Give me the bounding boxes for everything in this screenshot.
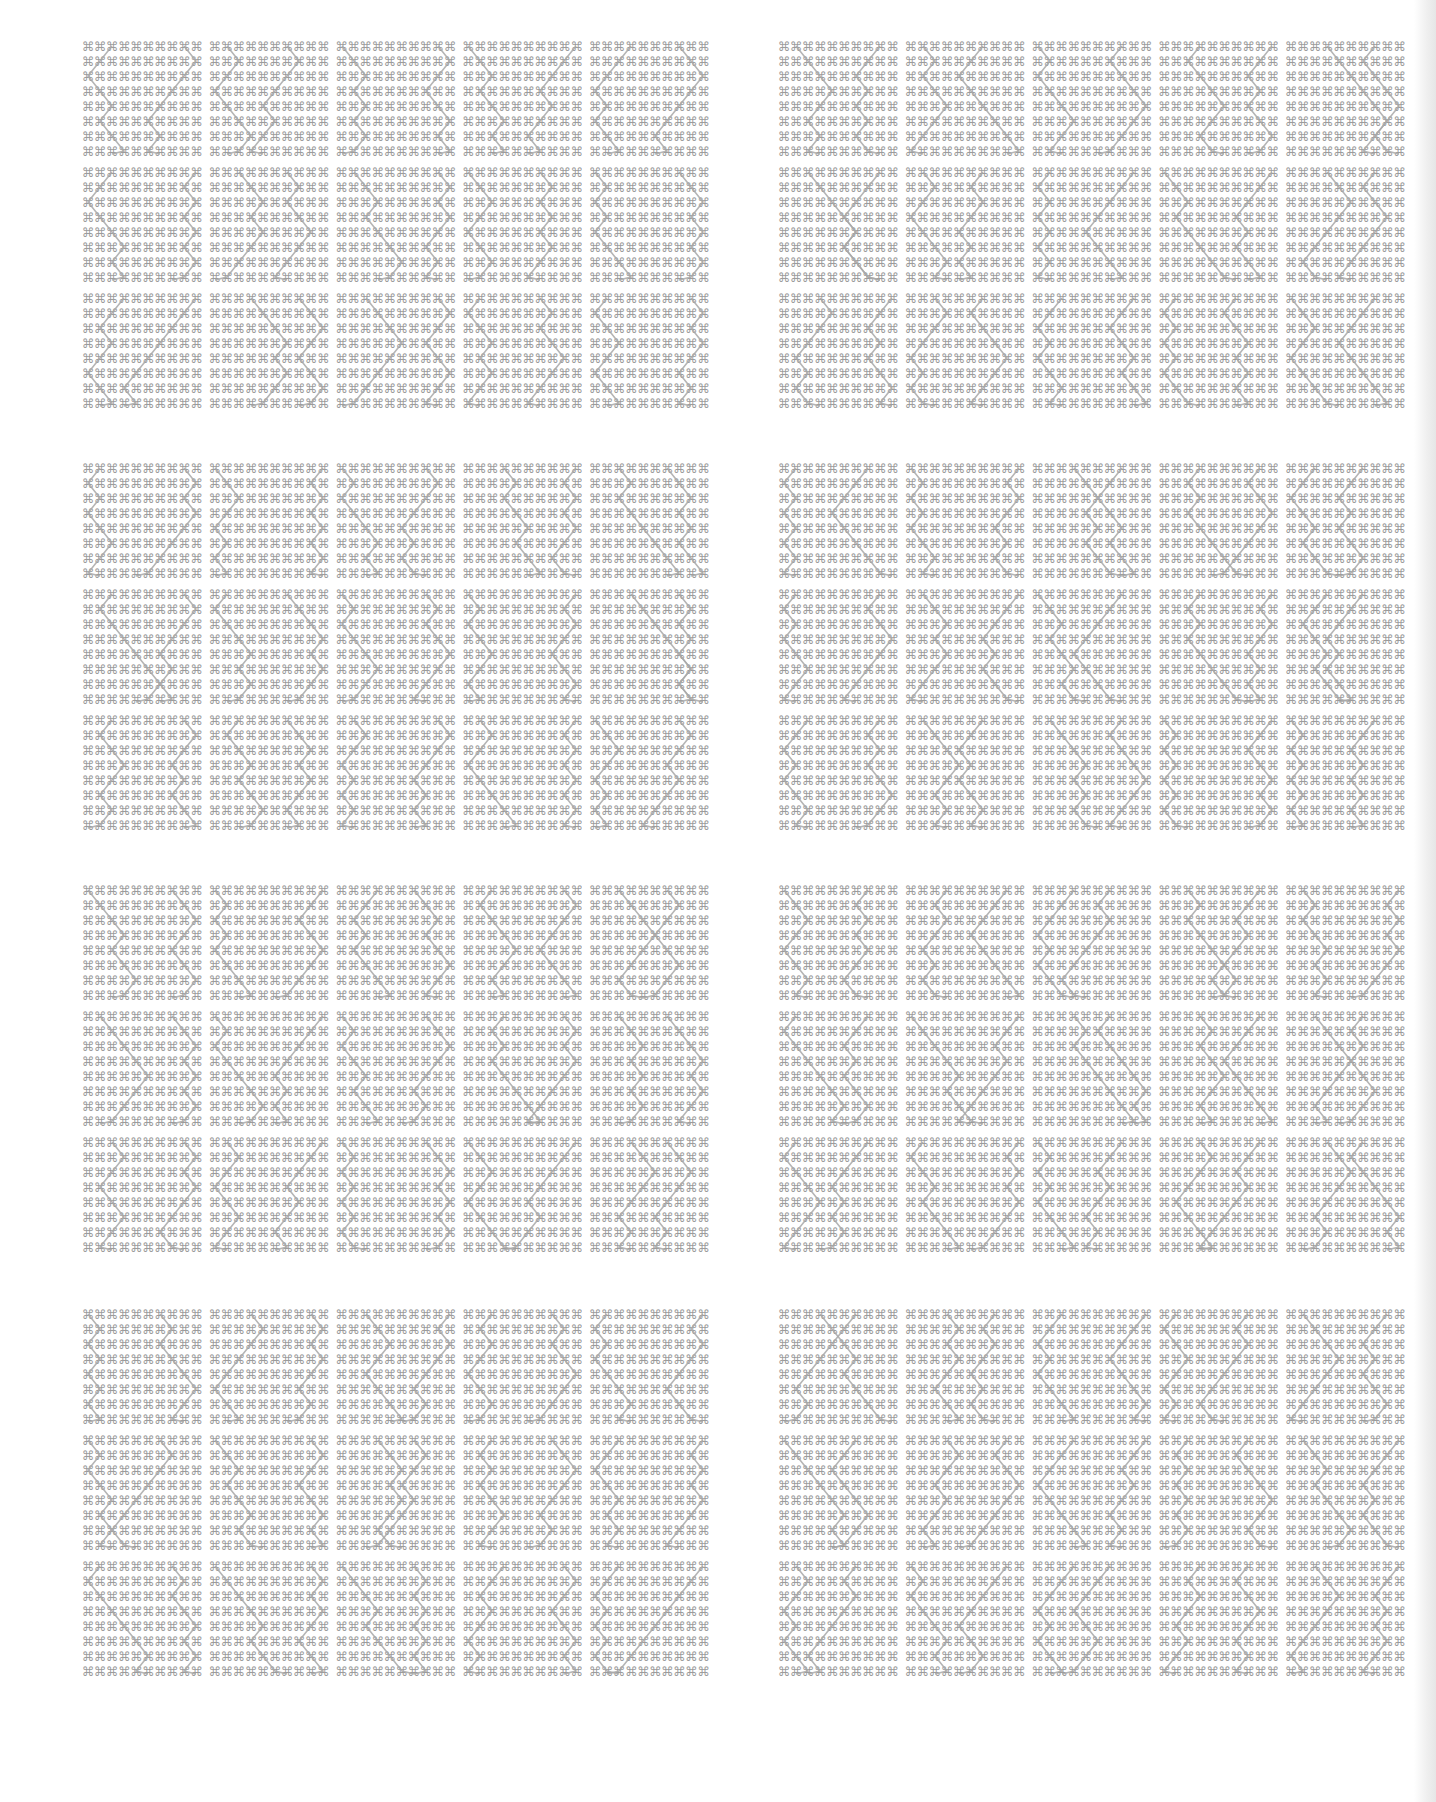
glyph-grid: ⌘⌘⌘⌘⌘⌘⌘⌘⌘⌘ ⌘⌘⌘⌘⌘⌘⌘⌘⌘⌘ ⌘⌘⌘⌘⌘⌘⌘⌘⌘⌘ ⌘⌘⌘⌘⌘⌘⌘… bbox=[905, 714, 1025, 833]
pattern-block: ⌘⌘⌘⌘⌘⌘⌘⌘⌘⌘ ⌘⌘⌘⌘⌘⌘⌘⌘⌘⌘ ⌘⌘⌘⌘⌘⌘⌘⌘⌘⌘ ⌘⌘⌘⌘⌘⌘⌘… bbox=[82, 462, 709, 834]
pattern-tile: ⌘⌘⌘⌘⌘⌘⌘⌘⌘⌘ ⌘⌘⌘⌘⌘⌘⌘⌘⌘⌘ ⌘⌘⌘⌘⌘⌘⌘⌘⌘⌘ ⌘⌘⌘⌘⌘⌘⌘… bbox=[1285, 166, 1405, 286]
pattern-tile: ⌘⌘⌘⌘⌘⌘⌘⌘⌘⌘ ⌘⌘⌘⌘⌘⌘⌘⌘⌘⌘ ⌘⌘⌘⌘⌘⌘⌘⌘⌘⌘ ⌘⌘⌘⌘⌘⌘⌘… bbox=[462, 40, 582, 160]
glyph-grid: ⌘⌘⌘⌘⌘⌘⌘⌘⌘⌘ ⌘⌘⌘⌘⌘⌘⌘⌘⌘⌘ ⌘⌘⌘⌘⌘⌘⌘⌘⌘⌘ ⌘⌘⌘⌘⌘⌘⌘… bbox=[462, 1010, 582, 1129]
glyph-grid: ⌘⌘⌘⌘⌘⌘⌘⌘⌘⌘ ⌘⌘⌘⌘⌘⌘⌘⌘⌘⌘ ⌘⌘⌘⌘⌘⌘⌘⌘⌘⌘ ⌘⌘⌘⌘⌘⌘⌘… bbox=[1285, 166, 1405, 285]
glyph-grid: ⌘⌘⌘⌘⌘⌘⌘⌘⌘⌘ ⌘⌘⌘⌘⌘⌘⌘⌘⌘⌘ ⌘⌘⌘⌘⌘⌘⌘⌘⌘⌘ ⌘⌘⌘⌘⌘⌘⌘… bbox=[905, 462, 1025, 581]
pattern-tile: ⌘⌘⌘⌘⌘⌘⌘⌘⌘⌘ ⌘⌘⌘⌘⌘⌘⌘⌘⌘⌘ ⌘⌘⌘⌘⌘⌘⌘⌘⌘⌘ ⌘⌘⌘⌘⌘⌘⌘… bbox=[905, 166, 1025, 286]
pattern-tile: ⌘⌘⌘⌘⌘⌘⌘⌘⌘⌘ ⌘⌘⌘⌘⌘⌘⌘⌘⌘⌘ ⌘⌘⌘⌘⌘⌘⌘⌘⌘⌘ ⌘⌘⌘⌘⌘⌘⌘… bbox=[336, 292, 456, 412]
glyph-grid: ⌘⌘⌘⌘⌘⌘⌘⌘⌘⌘ ⌘⌘⌘⌘⌘⌘⌘⌘⌘⌘ ⌘⌘⌘⌘⌘⌘⌘⌘⌘⌘ ⌘⌘⌘⌘⌘⌘⌘… bbox=[209, 588, 329, 707]
pattern-tile: ⌘⌘⌘⌘⌘⌘⌘⌘⌘⌘ ⌘⌘⌘⌘⌘⌘⌘⌘⌘⌘ ⌘⌘⌘⌘⌘⌘⌘⌘⌘⌘ ⌘⌘⌘⌘⌘⌘⌘… bbox=[82, 40, 202, 160]
pattern-tile: ⌘⌘⌘⌘⌘⌘⌘⌘⌘⌘ ⌘⌘⌘⌘⌘⌘⌘⌘⌘⌘ ⌘⌘⌘⌘⌘⌘⌘⌘⌘⌘ ⌘⌘⌘⌘⌘⌘⌘… bbox=[209, 1560, 329, 1680]
glyph-grid: ⌘⌘⌘⌘⌘⌘⌘⌘⌘⌘ ⌘⌘⌘⌘⌘⌘⌘⌘⌘⌘ ⌘⌘⌘⌘⌘⌘⌘⌘⌘⌘ ⌘⌘⌘⌘⌘⌘⌘… bbox=[1285, 292, 1405, 411]
pattern-tile: ⌘⌘⌘⌘⌘⌘⌘⌘⌘⌘ ⌘⌘⌘⌘⌘⌘⌘⌘⌘⌘ ⌘⌘⌘⌘⌘⌘⌘⌘⌘⌘ ⌘⌘⌘⌘⌘⌘⌘… bbox=[1032, 1308, 1152, 1428]
glyph-grid: ⌘⌘⌘⌘⌘⌘⌘⌘⌘⌘ ⌘⌘⌘⌘⌘⌘⌘⌘⌘⌘ ⌘⌘⌘⌘⌘⌘⌘⌘⌘⌘ ⌘⌘⌘⌘⌘⌘⌘… bbox=[336, 40, 456, 159]
pattern-tile: ⌘⌘⌘⌘⌘⌘⌘⌘⌘⌘ ⌘⌘⌘⌘⌘⌘⌘⌘⌘⌘ ⌘⌘⌘⌘⌘⌘⌘⌘⌘⌘ ⌘⌘⌘⌘⌘⌘⌘… bbox=[1158, 1010, 1278, 1130]
pattern-block: ⌘⌘⌘⌘⌘⌘⌘⌘⌘⌘ ⌘⌘⌘⌘⌘⌘⌘⌘⌘⌘ ⌘⌘⌘⌘⌘⌘⌘⌘⌘⌘ ⌘⌘⌘⌘⌘⌘⌘… bbox=[82, 1308, 709, 1680]
pattern-tile: ⌘⌘⌘⌘⌘⌘⌘⌘⌘⌘ ⌘⌘⌘⌘⌘⌘⌘⌘⌘⌘ ⌘⌘⌘⌘⌘⌘⌘⌘⌘⌘ ⌘⌘⌘⌘⌘⌘⌘… bbox=[778, 292, 898, 412]
pattern-tile: ⌘⌘⌘⌘⌘⌘⌘⌘⌘⌘ ⌘⌘⌘⌘⌘⌘⌘⌘⌘⌘ ⌘⌘⌘⌘⌘⌘⌘⌘⌘⌘ ⌘⌘⌘⌘⌘⌘⌘… bbox=[336, 1136, 456, 1256]
glyph-grid: ⌘⌘⌘⌘⌘⌘⌘⌘⌘⌘ ⌘⌘⌘⌘⌘⌘⌘⌘⌘⌘ ⌘⌘⌘⌘⌘⌘⌘⌘⌘⌘ ⌘⌘⌘⌘⌘⌘⌘… bbox=[1158, 884, 1278, 1003]
glyph-grid: ⌘⌘⌘⌘⌘⌘⌘⌘⌘⌘ ⌘⌘⌘⌘⌘⌘⌘⌘⌘⌘ ⌘⌘⌘⌘⌘⌘⌘⌘⌘⌘ ⌘⌘⌘⌘⌘⌘⌘… bbox=[589, 1434, 709, 1553]
pattern-tile: ⌘⌘⌘⌘⌘⌘⌘⌘⌘⌘ ⌘⌘⌘⌘⌘⌘⌘⌘⌘⌘ ⌘⌘⌘⌘⌘⌘⌘⌘⌘⌘ ⌘⌘⌘⌘⌘⌘⌘… bbox=[82, 884, 202, 1004]
glyph-grid: ⌘⌘⌘⌘⌘⌘⌘⌘⌘⌘ ⌘⌘⌘⌘⌘⌘⌘⌘⌘⌘ ⌘⌘⌘⌘⌘⌘⌘⌘⌘⌘ ⌘⌘⌘⌘⌘⌘⌘… bbox=[462, 1308, 582, 1427]
glyph-grid: ⌘⌘⌘⌘⌘⌘⌘⌘⌘⌘ ⌘⌘⌘⌘⌘⌘⌘⌘⌘⌘ ⌘⌘⌘⌘⌘⌘⌘⌘⌘⌘ ⌘⌘⌘⌘⌘⌘⌘… bbox=[778, 166, 898, 285]
glyph-grid: ⌘⌘⌘⌘⌘⌘⌘⌘⌘⌘ ⌘⌘⌘⌘⌘⌘⌘⌘⌘⌘ ⌘⌘⌘⌘⌘⌘⌘⌘⌘⌘ ⌘⌘⌘⌘⌘⌘⌘… bbox=[1158, 166, 1278, 285]
glyph-grid: ⌘⌘⌘⌘⌘⌘⌘⌘⌘⌘ ⌘⌘⌘⌘⌘⌘⌘⌘⌘⌘ ⌘⌘⌘⌘⌘⌘⌘⌘⌘⌘ ⌘⌘⌘⌘⌘⌘⌘… bbox=[1285, 1434, 1405, 1553]
pattern-tile: ⌘⌘⌘⌘⌘⌘⌘⌘⌘⌘ ⌘⌘⌘⌘⌘⌘⌘⌘⌘⌘ ⌘⌘⌘⌘⌘⌘⌘⌘⌘⌘ ⌘⌘⌘⌘⌘⌘⌘… bbox=[1158, 1434, 1278, 1554]
pattern-tile: ⌘⌘⌘⌘⌘⌘⌘⌘⌘⌘ ⌘⌘⌘⌘⌘⌘⌘⌘⌘⌘ ⌘⌘⌘⌘⌘⌘⌘⌘⌘⌘ ⌘⌘⌘⌘⌘⌘⌘… bbox=[209, 292, 329, 412]
pattern-tile: ⌘⌘⌘⌘⌘⌘⌘⌘⌘⌘ ⌘⌘⌘⌘⌘⌘⌘⌘⌘⌘ ⌘⌘⌘⌘⌘⌘⌘⌘⌘⌘ ⌘⌘⌘⌘⌘⌘⌘… bbox=[209, 1434, 329, 1554]
pattern-tile: ⌘⌘⌘⌘⌘⌘⌘⌘⌘⌘ ⌘⌘⌘⌘⌘⌘⌘⌘⌘⌘ ⌘⌘⌘⌘⌘⌘⌘⌘⌘⌘ ⌘⌘⌘⌘⌘⌘⌘… bbox=[1285, 884, 1405, 1004]
pattern-tile: ⌘⌘⌘⌘⌘⌘⌘⌘⌘⌘ ⌘⌘⌘⌘⌘⌘⌘⌘⌘⌘ ⌘⌘⌘⌘⌘⌘⌘⌘⌘⌘ ⌘⌘⌘⌘⌘⌘⌘… bbox=[336, 1434, 456, 1554]
pattern-tile: ⌘⌘⌘⌘⌘⌘⌘⌘⌘⌘ ⌘⌘⌘⌘⌘⌘⌘⌘⌘⌘ ⌘⌘⌘⌘⌘⌘⌘⌘⌘⌘ ⌘⌘⌘⌘⌘⌘⌘… bbox=[336, 1308, 456, 1428]
pattern-tile: ⌘⌘⌘⌘⌘⌘⌘⌘⌘⌘ ⌘⌘⌘⌘⌘⌘⌘⌘⌘⌘ ⌘⌘⌘⌘⌘⌘⌘⌘⌘⌘ ⌘⌘⌘⌘⌘⌘⌘… bbox=[1285, 1136, 1405, 1256]
glyph-grid: ⌘⌘⌘⌘⌘⌘⌘⌘⌘⌘ ⌘⌘⌘⌘⌘⌘⌘⌘⌘⌘ ⌘⌘⌘⌘⌘⌘⌘⌘⌘⌘ ⌘⌘⌘⌘⌘⌘⌘… bbox=[1285, 462, 1405, 581]
glyph-grid: ⌘⌘⌘⌘⌘⌘⌘⌘⌘⌘ ⌘⌘⌘⌘⌘⌘⌘⌘⌘⌘ ⌘⌘⌘⌘⌘⌘⌘⌘⌘⌘ ⌘⌘⌘⌘⌘⌘⌘… bbox=[209, 40, 329, 159]
pattern-tile: ⌘⌘⌘⌘⌘⌘⌘⌘⌘⌘ ⌘⌘⌘⌘⌘⌘⌘⌘⌘⌘ ⌘⌘⌘⌘⌘⌘⌘⌘⌘⌘ ⌘⌘⌘⌘⌘⌘⌘… bbox=[1158, 166, 1278, 286]
pattern-tile: ⌘⌘⌘⌘⌘⌘⌘⌘⌘⌘ ⌘⌘⌘⌘⌘⌘⌘⌘⌘⌘ ⌘⌘⌘⌘⌘⌘⌘⌘⌘⌘ ⌘⌘⌘⌘⌘⌘⌘… bbox=[905, 1308, 1025, 1428]
glyph-grid: ⌘⌘⌘⌘⌘⌘⌘⌘⌘⌘ ⌘⌘⌘⌘⌘⌘⌘⌘⌘⌘ ⌘⌘⌘⌘⌘⌘⌘⌘⌘⌘ ⌘⌘⌘⌘⌘⌘⌘… bbox=[82, 884, 202, 1003]
glyph-grid: ⌘⌘⌘⌘⌘⌘⌘⌘⌘⌘ ⌘⌘⌘⌘⌘⌘⌘⌘⌘⌘ ⌘⌘⌘⌘⌘⌘⌘⌘⌘⌘ ⌘⌘⌘⌘⌘⌘⌘… bbox=[336, 1308, 456, 1427]
glyph-grid: ⌘⌘⌘⌘⌘⌘⌘⌘⌘⌘ ⌘⌘⌘⌘⌘⌘⌘⌘⌘⌘ ⌘⌘⌘⌘⌘⌘⌘⌘⌘⌘ ⌘⌘⌘⌘⌘⌘⌘… bbox=[905, 1434, 1025, 1553]
pattern-tile: ⌘⌘⌘⌘⌘⌘⌘⌘⌘⌘ ⌘⌘⌘⌘⌘⌘⌘⌘⌘⌘ ⌘⌘⌘⌘⌘⌘⌘⌘⌘⌘ ⌘⌘⌘⌘⌘⌘⌘… bbox=[778, 588, 898, 708]
glyph-grid: ⌘⌘⌘⌘⌘⌘⌘⌘⌘⌘ ⌘⌘⌘⌘⌘⌘⌘⌘⌘⌘ ⌘⌘⌘⌘⌘⌘⌘⌘⌘⌘ ⌘⌘⌘⌘⌘⌘⌘… bbox=[336, 292, 456, 411]
glyph-grid: ⌘⌘⌘⌘⌘⌘⌘⌘⌘⌘ ⌘⌘⌘⌘⌘⌘⌘⌘⌘⌘ ⌘⌘⌘⌘⌘⌘⌘⌘⌘⌘ ⌘⌘⌘⌘⌘⌘⌘… bbox=[82, 1136, 202, 1255]
glyph-grid: ⌘⌘⌘⌘⌘⌘⌘⌘⌘⌘ ⌘⌘⌘⌘⌘⌘⌘⌘⌘⌘ ⌘⌘⌘⌘⌘⌘⌘⌘⌘⌘ ⌘⌘⌘⌘⌘⌘⌘… bbox=[1032, 884, 1152, 1003]
glyph-grid: ⌘⌘⌘⌘⌘⌘⌘⌘⌘⌘ ⌘⌘⌘⌘⌘⌘⌘⌘⌘⌘ ⌘⌘⌘⌘⌘⌘⌘⌘⌘⌘ ⌘⌘⌘⌘⌘⌘⌘… bbox=[905, 1010, 1025, 1129]
glyph-grid: ⌘⌘⌘⌘⌘⌘⌘⌘⌘⌘ ⌘⌘⌘⌘⌘⌘⌘⌘⌘⌘ ⌘⌘⌘⌘⌘⌘⌘⌘⌘⌘ ⌘⌘⌘⌘⌘⌘⌘… bbox=[209, 166, 329, 285]
glyph-grid: ⌘⌘⌘⌘⌘⌘⌘⌘⌘⌘ ⌘⌘⌘⌘⌘⌘⌘⌘⌘⌘ ⌘⌘⌘⌘⌘⌘⌘⌘⌘⌘ ⌘⌘⌘⌘⌘⌘⌘… bbox=[1032, 1010, 1152, 1129]
pattern-tile: ⌘⌘⌘⌘⌘⌘⌘⌘⌘⌘ ⌘⌘⌘⌘⌘⌘⌘⌘⌘⌘ ⌘⌘⌘⌘⌘⌘⌘⌘⌘⌘ ⌘⌘⌘⌘⌘⌘⌘… bbox=[589, 1010, 709, 1130]
pattern-tile: ⌘⌘⌘⌘⌘⌘⌘⌘⌘⌘ ⌘⌘⌘⌘⌘⌘⌘⌘⌘⌘ ⌘⌘⌘⌘⌘⌘⌘⌘⌘⌘ ⌘⌘⌘⌘⌘⌘⌘… bbox=[336, 1010, 456, 1130]
glyph-grid: ⌘⌘⌘⌘⌘⌘⌘⌘⌘⌘ ⌘⌘⌘⌘⌘⌘⌘⌘⌘⌘ ⌘⌘⌘⌘⌘⌘⌘⌘⌘⌘ ⌘⌘⌘⌘⌘⌘⌘… bbox=[589, 40, 709, 159]
pattern-tile: ⌘⌘⌘⌘⌘⌘⌘⌘⌘⌘ ⌘⌘⌘⌘⌘⌘⌘⌘⌘⌘ ⌘⌘⌘⌘⌘⌘⌘⌘⌘⌘ ⌘⌘⌘⌘⌘⌘⌘… bbox=[336, 588, 456, 708]
pattern-tile: ⌘⌘⌘⌘⌘⌘⌘⌘⌘⌘ ⌘⌘⌘⌘⌘⌘⌘⌘⌘⌘ ⌘⌘⌘⌘⌘⌘⌘⌘⌘⌘ ⌘⌘⌘⌘⌘⌘⌘… bbox=[462, 1010, 582, 1130]
pattern-block: ⌘⌘⌘⌘⌘⌘⌘⌘⌘⌘ ⌘⌘⌘⌘⌘⌘⌘⌘⌘⌘ ⌘⌘⌘⌘⌘⌘⌘⌘⌘⌘ ⌘⌘⌘⌘⌘⌘⌘… bbox=[778, 462, 1405, 834]
glyph-grid: ⌘⌘⌘⌘⌘⌘⌘⌘⌘⌘ ⌘⌘⌘⌘⌘⌘⌘⌘⌘⌘ ⌘⌘⌘⌘⌘⌘⌘⌘⌘⌘ ⌘⌘⌘⌘⌘⌘⌘… bbox=[336, 1136, 456, 1255]
pattern-tile: ⌘⌘⌘⌘⌘⌘⌘⌘⌘⌘ ⌘⌘⌘⌘⌘⌘⌘⌘⌘⌘ ⌘⌘⌘⌘⌘⌘⌘⌘⌘⌘ ⌘⌘⌘⌘⌘⌘⌘… bbox=[778, 1010, 898, 1130]
glyph-grid: ⌘⌘⌘⌘⌘⌘⌘⌘⌘⌘ ⌘⌘⌘⌘⌘⌘⌘⌘⌘⌘ ⌘⌘⌘⌘⌘⌘⌘⌘⌘⌘ ⌘⌘⌘⌘⌘⌘⌘… bbox=[1158, 292, 1278, 411]
glyph-grid: ⌘⌘⌘⌘⌘⌘⌘⌘⌘⌘ ⌘⌘⌘⌘⌘⌘⌘⌘⌘⌘ ⌘⌘⌘⌘⌘⌘⌘⌘⌘⌘ ⌘⌘⌘⌘⌘⌘⌘… bbox=[462, 1560, 582, 1679]
glyph-grid: ⌘⌘⌘⌘⌘⌘⌘⌘⌘⌘ ⌘⌘⌘⌘⌘⌘⌘⌘⌘⌘ ⌘⌘⌘⌘⌘⌘⌘⌘⌘⌘ ⌘⌘⌘⌘⌘⌘⌘… bbox=[1285, 714, 1405, 833]
pattern-block: ⌘⌘⌘⌘⌘⌘⌘⌘⌘⌘ ⌘⌘⌘⌘⌘⌘⌘⌘⌘⌘ ⌘⌘⌘⌘⌘⌘⌘⌘⌘⌘ ⌘⌘⌘⌘⌘⌘⌘… bbox=[778, 884, 1405, 1256]
glyph-grid: ⌘⌘⌘⌘⌘⌘⌘⌘⌘⌘ ⌘⌘⌘⌘⌘⌘⌘⌘⌘⌘ ⌘⌘⌘⌘⌘⌘⌘⌘⌘⌘ ⌘⌘⌘⌘⌘⌘⌘… bbox=[778, 1434, 898, 1553]
glyph-grid: ⌘⌘⌘⌘⌘⌘⌘⌘⌘⌘ ⌘⌘⌘⌘⌘⌘⌘⌘⌘⌘ ⌘⌘⌘⌘⌘⌘⌘⌘⌘⌘ ⌘⌘⌘⌘⌘⌘⌘… bbox=[336, 1434, 456, 1553]
pattern-tile: ⌘⌘⌘⌘⌘⌘⌘⌘⌘⌘ ⌘⌘⌘⌘⌘⌘⌘⌘⌘⌘ ⌘⌘⌘⌘⌘⌘⌘⌘⌘⌘ ⌘⌘⌘⌘⌘⌘⌘… bbox=[82, 1308, 202, 1428]
glyph-grid: ⌘⌘⌘⌘⌘⌘⌘⌘⌘⌘ ⌘⌘⌘⌘⌘⌘⌘⌘⌘⌘ ⌘⌘⌘⌘⌘⌘⌘⌘⌘⌘ ⌘⌘⌘⌘⌘⌘⌘… bbox=[589, 462, 709, 581]
pattern-tile: ⌘⌘⌘⌘⌘⌘⌘⌘⌘⌘ ⌘⌘⌘⌘⌘⌘⌘⌘⌘⌘ ⌘⌘⌘⌘⌘⌘⌘⌘⌘⌘ ⌘⌘⌘⌘⌘⌘⌘… bbox=[462, 292, 582, 412]
glyph-grid: ⌘⌘⌘⌘⌘⌘⌘⌘⌘⌘ ⌘⌘⌘⌘⌘⌘⌘⌘⌘⌘ ⌘⌘⌘⌘⌘⌘⌘⌘⌘⌘ ⌘⌘⌘⌘⌘⌘⌘… bbox=[462, 292, 582, 411]
pattern-tile: ⌘⌘⌘⌘⌘⌘⌘⌘⌘⌘ ⌘⌘⌘⌘⌘⌘⌘⌘⌘⌘ ⌘⌘⌘⌘⌘⌘⌘⌘⌘⌘ ⌘⌘⌘⌘⌘⌘⌘… bbox=[336, 714, 456, 834]
pattern-tile: ⌘⌘⌘⌘⌘⌘⌘⌘⌘⌘ ⌘⌘⌘⌘⌘⌘⌘⌘⌘⌘ ⌘⌘⌘⌘⌘⌘⌘⌘⌘⌘ ⌘⌘⌘⌘⌘⌘⌘… bbox=[905, 1434, 1025, 1554]
pattern-tile: ⌘⌘⌘⌘⌘⌘⌘⌘⌘⌘ ⌘⌘⌘⌘⌘⌘⌘⌘⌘⌘ ⌘⌘⌘⌘⌘⌘⌘⌘⌘⌘ ⌘⌘⌘⌘⌘⌘⌘… bbox=[82, 462, 202, 582]
pattern-tile: ⌘⌘⌘⌘⌘⌘⌘⌘⌘⌘ ⌘⌘⌘⌘⌘⌘⌘⌘⌘⌘ ⌘⌘⌘⌘⌘⌘⌘⌘⌘⌘ ⌘⌘⌘⌘⌘⌘⌘… bbox=[1158, 1308, 1278, 1428]
glyph-grid: ⌘⌘⌘⌘⌘⌘⌘⌘⌘⌘ ⌘⌘⌘⌘⌘⌘⌘⌘⌘⌘ ⌘⌘⌘⌘⌘⌘⌘⌘⌘⌘ ⌘⌘⌘⌘⌘⌘⌘… bbox=[462, 166, 582, 285]
pattern-tile: ⌘⌘⌘⌘⌘⌘⌘⌘⌘⌘ ⌘⌘⌘⌘⌘⌘⌘⌘⌘⌘ ⌘⌘⌘⌘⌘⌘⌘⌘⌘⌘ ⌘⌘⌘⌘⌘⌘⌘… bbox=[778, 40, 898, 160]
glyph-grid: ⌘⌘⌘⌘⌘⌘⌘⌘⌘⌘ ⌘⌘⌘⌘⌘⌘⌘⌘⌘⌘ ⌘⌘⌘⌘⌘⌘⌘⌘⌘⌘ ⌘⌘⌘⌘⌘⌘⌘… bbox=[778, 1136, 898, 1255]
pattern-tile: ⌘⌘⌘⌘⌘⌘⌘⌘⌘⌘ ⌘⌘⌘⌘⌘⌘⌘⌘⌘⌘ ⌘⌘⌘⌘⌘⌘⌘⌘⌘⌘ ⌘⌘⌘⌘⌘⌘⌘… bbox=[1285, 588, 1405, 708]
glyph-grid: ⌘⌘⌘⌘⌘⌘⌘⌘⌘⌘ ⌘⌘⌘⌘⌘⌘⌘⌘⌘⌘ ⌘⌘⌘⌘⌘⌘⌘⌘⌘⌘ ⌘⌘⌘⌘⌘⌘⌘… bbox=[905, 1308, 1025, 1427]
pattern-tile: ⌘⌘⌘⌘⌘⌘⌘⌘⌘⌘ ⌘⌘⌘⌘⌘⌘⌘⌘⌘⌘ ⌘⌘⌘⌘⌘⌘⌘⌘⌘⌘ ⌘⌘⌘⌘⌘⌘⌘… bbox=[1285, 714, 1405, 834]
pattern-tile: ⌘⌘⌘⌘⌘⌘⌘⌘⌘⌘ ⌘⌘⌘⌘⌘⌘⌘⌘⌘⌘ ⌘⌘⌘⌘⌘⌘⌘⌘⌘⌘ ⌘⌘⌘⌘⌘⌘⌘… bbox=[336, 462, 456, 582]
pattern-tile: ⌘⌘⌘⌘⌘⌘⌘⌘⌘⌘ ⌘⌘⌘⌘⌘⌘⌘⌘⌘⌘ ⌘⌘⌘⌘⌘⌘⌘⌘⌘⌘ ⌘⌘⌘⌘⌘⌘⌘… bbox=[589, 884, 709, 1004]
pattern-tile: ⌘⌘⌘⌘⌘⌘⌘⌘⌘⌘ ⌘⌘⌘⌘⌘⌘⌘⌘⌘⌘ ⌘⌘⌘⌘⌘⌘⌘⌘⌘⌘ ⌘⌘⌘⌘⌘⌘⌘… bbox=[778, 1560, 898, 1680]
pattern-tile: ⌘⌘⌘⌘⌘⌘⌘⌘⌘⌘ ⌘⌘⌘⌘⌘⌘⌘⌘⌘⌘ ⌘⌘⌘⌘⌘⌘⌘⌘⌘⌘ ⌘⌘⌘⌘⌘⌘⌘… bbox=[905, 40, 1025, 160]
pattern-tile: ⌘⌘⌘⌘⌘⌘⌘⌘⌘⌘ ⌘⌘⌘⌘⌘⌘⌘⌘⌘⌘ ⌘⌘⌘⌘⌘⌘⌘⌘⌘⌘ ⌘⌘⌘⌘⌘⌘⌘… bbox=[82, 1136, 202, 1256]
pattern-tile: ⌘⌘⌘⌘⌘⌘⌘⌘⌘⌘ ⌘⌘⌘⌘⌘⌘⌘⌘⌘⌘ ⌘⌘⌘⌘⌘⌘⌘⌘⌘⌘ ⌘⌘⌘⌘⌘⌘⌘… bbox=[778, 166, 898, 286]
glyph-grid: ⌘⌘⌘⌘⌘⌘⌘⌘⌘⌘ ⌘⌘⌘⌘⌘⌘⌘⌘⌘⌘ ⌘⌘⌘⌘⌘⌘⌘⌘⌘⌘ ⌘⌘⌘⌘⌘⌘⌘… bbox=[1158, 1560, 1278, 1679]
glyph-grid: ⌘⌘⌘⌘⌘⌘⌘⌘⌘⌘ ⌘⌘⌘⌘⌘⌘⌘⌘⌘⌘ ⌘⌘⌘⌘⌘⌘⌘⌘⌘⌘ ⌘⌘⌘⌘⌘⌘⌘… bbox=[589, 292, 709, 411]
pattern-tile: ⌘⌘⌘⌘⌘⌘⌘⌘⌘⌘ ⌘⌘⌘⌘⌘⌘⌘⌘⌘⌘ ⌘⌘⌘⌘⌘⌘⌘⌘⌘⌘ ⌘⌘⌘⌘⌘⌘⌘… bbox=[336, 1560, 456, 1680]
glyph-grid: ⌘⌘⌘⌘⌘⌘⌘⌘⌘⌘ ⌘⌘⌘⌘⌘⌘⌘⌘⌘⌘ ⌘⌘⌘⌘⌘⌘⌘⌘⌘⌘ ⌘⌘⌘⌘⌘⌘⌘… bbox=[1285, 1308, 1405, 1427]
pattern-tile: ⌘⌘⌘⌘⌘⌘⌘⌘⌘⌘ ⌘⌘⌘⌘⌘⌘⌘⌘⌘⌘ ⌘⌘⌘⌘⌘⌘⌘⌘⌘⌘ ⌘⌘⌘⌘⌘⌘⌘… bbox=[1032, 292, 1152, 412]
pattern-tile: ⌘⌘⌘⌘⌘⌘⌘⌘⌘⌘ ⌘⌘⌘⌘⌘⌘⌘⌘⌘⌘ ⌘⌘⌘⌘⌘⌘⌘⌘⌘⌘ ⌘⌘⌘⌘⌘⌘⌘… bbox=[462, 1434, 582, 1554]
pattern-tile: ⌘⌘⌘⌘⌘⌘⌘⌘⌘⌘ ⌘⌘⌘⌘⌘⌘⌘⌘⌘⌘ ⌘⌘⌘⌘⌘⌘⌘⌘⌘⌘ ⌘⌘⌘⌘⌘⌘⌘… bbox=[82, 1560, 202, 1680]
glyph-grid: ⌘⌘⌘⌘⌘⌘⌘⌘⌘⌘ ⌘⌘⌘⌘⌘⌘⌘⌘⌘⌘ ⌘⌘⌘⌘⌘⌘⌘⌘⌘⌘ ⌘⌘⌘⌘⌘⌘⌘… bbox=[778, 714, 898, 833]
glyph-grid: ⌘⌘⌘⌘⌘⌘⌘⌘⌘⌘ ⌘⌘⌘⌘⌘⌘⌘⌘⌘⌘ ⌘⌘⌘⌘⌘⌘⌘⌘⌘⌘ ⌘⌘⌘⌘⌘⌘⌘… bbox=[1032, 588, 1152, 707]
glyph-grid: ⌘⌘⌘⌘⌘⌘⌘⌘⌘⌘ ⌘⌘⌘⌘⌘⌘⌘⌘⌘⌘ ⌘⌘⌘⌘⌘⌘⌘⌘⌘⌘ ⌘⌘⌘⌘⌘⌘⌘… bbox=[336, 714, 456, 833]
pattern-tile: ⌘⌘⌘⌘⌘⌘⌘⌘⌘⌘ ⌘⌘⌘⌘⌘⌘⌘⌘⌘⌘ ⌘⌘⌘⌘⌘⌘⌘⌘⌘⌘ ⌘⌘⌘⌘⌘⌘⌘… bbox=[336, 40, 456, 160]
glyph-grid: ⌘⌘⌘⌘⌘⌘⌘⌘⌘⌘ ⌘⌘⌘⌘⌘⌘⌘⌘⌘⌘ ⌘⌘⌘⌘⌘⌘⌘⌘⌘⌘ ⌘⌘⌘⌘⌘⌘⌘… bbox=[1285, 1010, 1405, 1129]
glyph-grid: ⌘⌘⌘⌘⌘⌘⌘⌘⌘⌘ ⌘⌘⌘⌘⌘⌘⌘⌘⌘⌘ ⌘⌘⌘⌘⌘⌘⌘⌘⌘⌘ ⌘⌘⌘⌘⌘⌘⌘… bbox=[462, 1136, 582, 1255]
pattern-tile: ⌘⌘⌘⌘⌘⌘⌘⌘⌘⌘ ⌘⌘⌘⌘⌘⌘⌘⌘⌘⌘ ⌘⌘⌘⌘⌘⌘⌘⌘⌘⌘ ⌘⌘⌘⌘⌘⌘⌘… bbox=[1158, 1560, 1278, 1680]
glyph-grid: ⌘⌘⌘⌘⌘⌘⌘⌘⌘⌘ ⌘⌘⌘⌘⌘⌘⌘⌘⌘⌘ ⌘⌘⌘⌘⌘⌘⌘⌘⌘⌘ ⌘⌘⌘⌘⌘⌘⌘… bbox=[778, 1560, 898, 1679]
pattern-tile: ⌘⌘⌘⌘⌘⌘⌘⌘⌘⌘ ⌘⌘⌘⌘⌘⌘⌘⌘⌘⌘ ⌘⌘⌘⌘⌘⌘⌘⌘⌘⌘ ⌘⌘⌘⌘⌘⌘⌘… bbox=[462, 1136, 582, 1256]
glyph-grid: ⌘⌘⌘⌘⌘⌘⌘⌘⌘⌘ ⌘⌘⌘⌘⌘⌘⌘⌘⌘⌘ ⌘⌘⌘⌘⌘⌘⌘⌘⌘⌘ ⌘⌘⌘⌘⌘⌘⌘… bbox=[82, 1010, 202, 1129]
pattern-tile: ⌘⌘⌘⌘⌘⌘⌘⌘⌘⌘ ⌘⌘⌘⌘⌘⌘⌘⌘⌘⌘ ⌘⌘⌘⌘⌘⌘⌘⌘⌘⌘ ⌘⌘⌘⌘⌘⌘⌘… bbox=[1032, 1136, 1152, 1256]
pattern-tile: ⌘⌘⌘⌘⌘⌘⌘⌘⌘⌘ ⌘⌘⌘⌘⌘⌘⌘⌘⌘⌘ ⌘⌘⌘⌘⌘⌘⌘⌘⌘⌘ ⌘⌘⌘⌘⌘⌘⌘… bbox=[1158, 884, 1278, 1004]
